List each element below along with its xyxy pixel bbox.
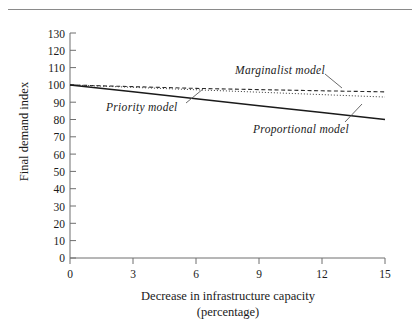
x-tick-label: 9 [256,268,262,280]
chart-figure: 130 120 110 100 90 80 70 60 50 40 30 20 … [0,0,418,335]
annotation-priority-model: Priority model [106,101,178,113]
x-tick-label: 12 [316,268,328,280]
leader-line-proportional [345,104,362,122]
leader-line-marginalist [325,74,342,88]
x-axis-label-line1: Decrease in infrastructure capacity [70,289,386,305]
y-tick-label: 90 [54,97,66,109]
y-tick-label: 30 [54,201,66,213]
y-tick-label: 70 [54,131,66,143]
x-tick-label: 6 [193,268,199,280]
y-tick-label: 100 [48,79,66,91]
y-tick-label: 80 [54,114,66,126]
plot-area: 130 120 110 100 90 80 70 60 50 40 30 20 … [0,0,418,335]
x-tick-label: 15 [379,268,391,280]
y-tick-label: 110 [48,62,65,74]
y-tick-label: 120 [48,45,66,57]
x-axis-label-line2: (percentage) [70,305,386,321]
x-tick-label: 3 [130,268,136,280]
y-tick-label: 0 [59,252,65,264]
x-tick-label: 0 [67,268,73,280]
y-axis-label: Final demand index [17,57,32,207]
annotation-marginalist-model: Marginalist model [235,64,325,76]
x-axis-label: Decrease in infrastructure capacity (per… [70,289,386,320]
leader-line-priority [186,89,203,103]
y-tick-label: 20 [54,218,66,230]
y-tick-label: 60 [54,149,66,161]
x-axis: 0 3 6 9 12 15 [67,258,391,280]
y-axis: 130 120 110 100 90 80 70 60 50 40 30 20 … [48,28,76,265]
y-tick-label: 10 [54,235,66,247]
y-tick-label: 50 [54,166,66,178]
y-tick-label: 130 [48,28,66,40]
annotation-proportional-model: Proportional model [253,123,349,135]
y-tick-label: 40 [54,183,66,195]
